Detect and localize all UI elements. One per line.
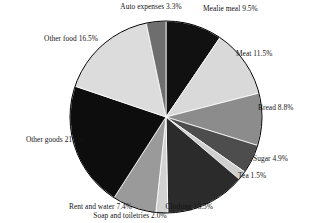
pie-chart-figure: Auto expenses 3.3% Mealie meal 9.5% Meat… <box>0 0 316 223</box>
slice-label-soap-and-toiletries: Soap and toiletries 2.0% <box>60 212 200 220</box>
slice-label-auto-expenses: Auto expenses 3.3% <box>102 3 200 11</box>
slice-label-sugar: Sugar 4.9% <box>253 155 288 163</box>
slice-label-tea: Tea 1.5% <box>238 172 266 180</box>
slice-label-other-goods: Other goods 21.1% <box>0 136 84 144</box>
slice-label-mealie-meal: Mealie meal 9.5% <box>203 5 258 13</box>
slice-label-other-food: Other food 16.5% <box>0 35 98 43</box>
slice-label-bread: Bread 8.8% <box>258 104 293 112</box>
slice-label-rent-and-water: Rent and water 7.4% <box>0 203 132 211</box>
slice-label-meat: Meat 11.5% <box>236 50 272 58</box>
